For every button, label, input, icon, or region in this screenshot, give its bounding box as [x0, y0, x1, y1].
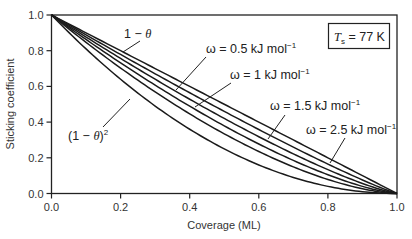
x-tick-label: 0.6 [251, 201, 266, 213]
arrow-1-minus-theta [123, 41, 140, 52]
label-omega-2-5: ω = 2.5 kJ mol−1 [306, 122, 397, 137]
y-tick-label: 0.4 [28, 116, 43, 128]
x-tick-label: 0.4 [182, 201, 197, 213]
arrow-1-minus-theta-squared [103, 99, 130, 127]
y-tick-label: 0.0 [28, 188, 43, 200]
arrow-omega-1 [195, 83, 231, 107]
arrow-omega-1-5 [268, 115, 285, 139]
arrow-omega-0-5 [176, 57, 206, 90]
label-1-minus-theta: 1 − θ [124, 27, 151, 41]
surface-temperature-box: Ts = 77 K [329, 24, 390, 49]
y-axis: 0.00.20.40.60.81.0 [28, 9, 51, 200]
x-tick-label: 1.0 [389, 201, 404, 213]
x-axis: 0.00.20.40.60.81.0 [44, 194, 405, 213]
sticking-coefficient-chart: 0.00.20.40.60.81.0 0.00.20.40.60.81.0 Co… [0, 0, 412, 239]
arrow-omega-2-5 [330, 138, 345, 163]
y-tick-label: 0.6 [28, 80, 43, 92]
x-tick-label: 0.2 [113, 201, 128, 213]
x-tick-label: 0.8 [320, 201, 335, 213]
y-tick-label: 1.0 [28, 9, 43, 21]
label-omega-1: ω = 1 kJ mol−1 [230, 67, 310, 82]
y-tick-label: 0.8 [28, 45, 43, 57]
label-omega-1-5: ω = 1.5 kJ mol−1 [270, 98, 361, 113]
label-1-minus-theta-squared: (1 − θ)2 [68, 128, 109, 143]
label-omega-0-5: ω = 0.5 kJ mol−1 [206, 41, 297, 56]
x-axis-title: Coverage (ML) [187, 219, 260, 231]
x-tick-label: 0.0 [44, 201, 59, 213]
y-tick-label: 0.2 [28, 152, 43, 164]
y-axis-title: Sticking coefficient [4, 59, 16, 150]
